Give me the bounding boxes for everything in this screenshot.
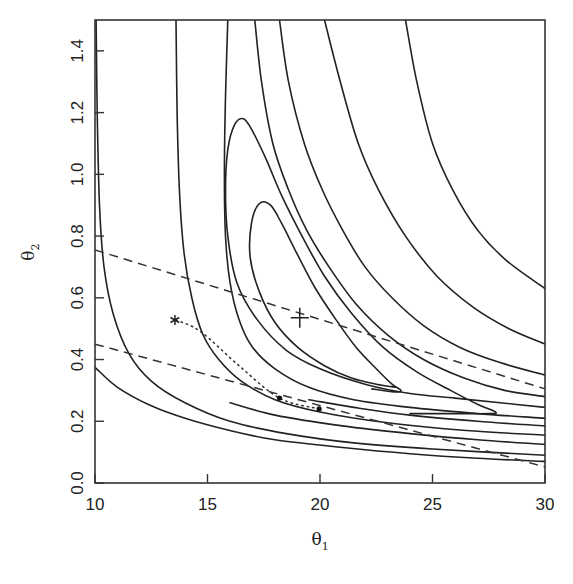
contour-5 bbox=[406, 20, 546, 289]
loop-inner bbox=[250, 202, 401, 392]
loop-outer bbox=[226, 119, 546, 414]
x-axis-label-sub: 1 bbox=[322, 540, 329, 553]
y-tick-label: 1.0 bbox=[68, 163, 87, 187]
y-axis-label: θ2 bbox=[18, 243, 42, 260]
plus-marker bbox=[291, 308, 309, 328]
contour-3 bbox=[224, 20, 545, 418]
y-tick-label: 0.8 bbox=[68, 224, 87, 248]
contour-chart: 10152025300.00.20.40.60.81.01.21.4 θ1 θ2 bbox=[0, 0, 573, 584]
x-axis-label-main: θ bbox=[311, 529, 321, 549]
y-tick-label: 0.2 bbox=[68, 409, 87, 433]
contour-4 bbox=[325, 20, 546, 344]
y-tick-label: 0.0 bbox=[68, 471, 87, 495]
dotted-path bbox=[176, 320, 319, 409]
y-tick-label: 1.4 bbox=[68, 39, 87, 63]
y-axis-label-main: θ bbox=[18, 250, 38, 260]
y-tick-label: 0.6 bbox=[68, 286, 87, 310]
x-axis-label: θ1 bbox=[311, 529, 328, 553]
x-tick-label: 20 bbox=[311, 495, 330, 514]
asterisk-marker-stroke bbox=[171, 315, 180, 325]
plus-marker-stroke bbox=[291, 308, 309, 328]
x-tick-label: 25 bbox=[423, 495, 442, 514]
axis-ticks: 10152025300.00.20.40.60.81.01.21.4 bbox=[68, 39, 554, 514]
dot-marker-1 bbox=[277, 396, 282, 401]
x-tick-label: 15 bbox=[198, 495, 217, 514]
dot-marker-1-shape bbox=[277, 396, 282, 401]
contour-7 bbox=[255, 20, 545, 397]
x-tick-label: 30 bbox=[536, 495, 555, 514]
plot-area bbox=[95, 20, 545, 467]
y-tick-label: 0.4 bbox=[68, 348, 87, 372]
contour-6 bbox=[280, 20, 546, 375]
contour-1 bbox=[96, 20, 545, 455]
y-axis-label-sub: 2 bbox=[29, 243, 42, 250]
asterisk-marker bbox=[171, 315, 180, 325]
y-tick-label: 1.2 bbox=[68, 101, 87, 125]
dot-marker-2-shape bbox=[317, 406, 322, 411]
contour-2 bbox=[176, 20, 545, 435]
x-tick-label: 10 bbox=[86, 495, 105, 514]
dot-marker-2 bbox=[317, 406, 322, 411]
